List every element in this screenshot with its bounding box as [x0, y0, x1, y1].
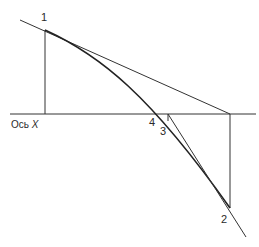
diagram-canvas: 1 2 3 4 Ось X [0, 0, 259, 247]
chord-line [20, 20, 230, 114]
diagram-svg: 1 2 3 4 Ось X [0, 0, 259, 247]
point-1-label: 1 [41, 11, 47, 23]
axis-label-var: X [31, 119, 39, 130]
point-3-label: 3 [160, 125, 166, 137]
point-4-label: 4 [149, 116, 155, 128]
axis-label: Ось X [11, 119, 39, 130]
function-curve [45, 30, 230, 208]
point-2-label: 2 [221, 213, 227, 225]
tangent-line [168, 114, 246, 237]
axis-label-word: Ось [11, 119, 29, 130]
